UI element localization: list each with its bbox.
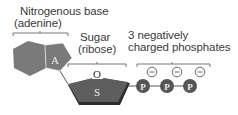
sugar-bracket bbox=[68, 62, 126, 67]
glycosidic-bond bbox=[60, 71, 68, 84]
phosphate-bracket bbox=[137, 62, 210, 67]
oxygen-letter: O bbox=[93, 68, 101, 80]
base-letter: A bbox=[51, 54, 59, 66]
phosphate-group-1: P bbox=[136, 67, 157, 93]
phosphate-letter: P bbox=[187, 82, 193, 92]
phosphate-letter: P bbox=[164, 82, 170, 92]
phosphate-group-2: P bbox=[160, 67, 182, 93]
phosphate-letter: P bbox=[140, 82, 146, 92]
sugar-letter: S bbox=[94, 86, 100, 98]
adenine-hexagon bbox=[13, 41, 46, 76]
base-bracket bbox=[13, 31, 68, 36]
atp-molecule-diagram: A O S P P P bbox=[0, 0, 238, 115]
phosphate-group-3: P bbox=[183, 67, 205, 93]
